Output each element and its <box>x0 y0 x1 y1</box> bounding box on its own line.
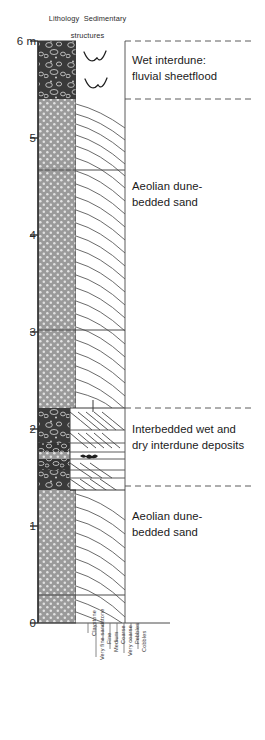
facies-note-aeolian-dune-lower: Aeolian dune- bedded sand <box>132 508 202 540</box>
facies-note-aeolian-dune-upper: Aeolian dune- bedded sand <box>132 178 202 210</box>
lithology-unit-conglomerate-ib1 <box>38 408 70 443</box>
lithology-unit-sandstone-upper <box>38 99 76 408</box>
grain-size-label-coarse: Coarse <box>120 625 126 644</box>
facies-note-wet-interdune: Wet interdune: fluvial sheetflood <box>132 52 217 84</box>
grain-size-label-fine: Fine <box>106 633 112 644</box>
grain-size-label-claystone: Claystone <box>91 610 97 636</box>
depth-axis-ticks <box>30 41 38 623</box>
facies-leader-lines <box>125 41 252 486</box>
lithology-unit-conglomerate-ib4 <box>38 470 70 490</box>
lithology-unit-conglomerate-ib3 <box>38 459 70 470</box>
grain-size-label-very-coarse: Very coarse <box>127 625 133 656</box>
facies-note-interbedded: Interbedded wet and dry interdune deposi… <box>132 421 244 453</box>
lithology-unit-conglomerate-ib2 <box>38 443 70 452</box>
grain-size-label-cobbles: Cobbles <box>141 631 147 652</box>
lithology-unit-sandstone-ib1 <box>38 452 70 459</box>
lithology-unit-sandstone-lower <box>38 490 76 623</box>
grain-size-label-pebbles: Pebbles <box>134 623 140 644</box>
lithology-unit-conglomerate-top <box>38 41 76 99</box>
grain-size-label-medium: Medium <box>113 631 119 652</box>
stratigraphic-log-figure: Lithology Sedimentary structures 6 m 5 4… <box>0 0 265 740</box>
grain-size-label-very-fine-sandstone: Very fine sandstone <box>99 609 105 660</box>
